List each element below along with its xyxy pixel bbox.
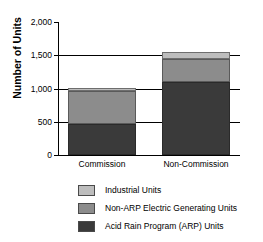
- stacked-bar-chart: Number of Units 2,000 1,500 1,000 500 0: [0, 0, 263, 242]
- chart-legend: Industrial Units Non-ARP Electric Genera…: [78, 181, 258, 235]
- bar-segment-arp: [68, 124, 136, 155]
- y-tick-label-1000: 1,000: [31, 84, 52, 94]
- legend-swatch-arp: [78, 221, 95, 232]
- plot-area: 2,000 1,500 1,000 500 0: [58, 22, 240, 155]
- y-axis-title: Number of Units: [11, 0, 23, 121]
- legend-swatch-non-arp: [78, 203, 95, 214]
- y-tick-label-0: 0: [47, 150, 52, 160]
- bar-segment-industrial: [68, 88, 136, 91]
- x-axis-label-commission: Commission: [79, 159, 126, 169]
- legend-swatch-industrial: [78, 185, 95, 196]
- legend-label-industrial: Industrial Units: [105, 185, 161, 195]
- bar-segment-arp: [162, 82, 230, 155]
- bar-segment-non-arp: [68, 91, 136, 124]
- legend-item-non-arp: Non-ARP Electric Generating Units: [78, 199, 258, 217]
- y-tick-label-1500: 1,500: [31, 50, 52, 60]
- legend-item-industrial: Industrial Units: [78, 181, 258, 199]
- y-tick-label-2000: 2,000: [31, 17, 52, 27]
- legend-label-arp: Acid Rain Program (ARP) Units: [105, 221, 224, 231]
- x-axis-line: [58, 155, 240, 156]
- bar-segment-industrial: [162, 52, 230, 59]
- bar-segment-non-arp: [162, 59, 230, 82]
- x-axis-label-non-commission: Non-Commission: [163, 159, 228, 169]
- y-tick-label-500: 500: [38, 117, 52, 127]
- legend-item-arp: Acid Rain Program (ARP) Units: [78, 217, 258, 235]
- legend-label-non-arp: Non-ARP Electric Generating Units: [105, 203, 237, 213]
